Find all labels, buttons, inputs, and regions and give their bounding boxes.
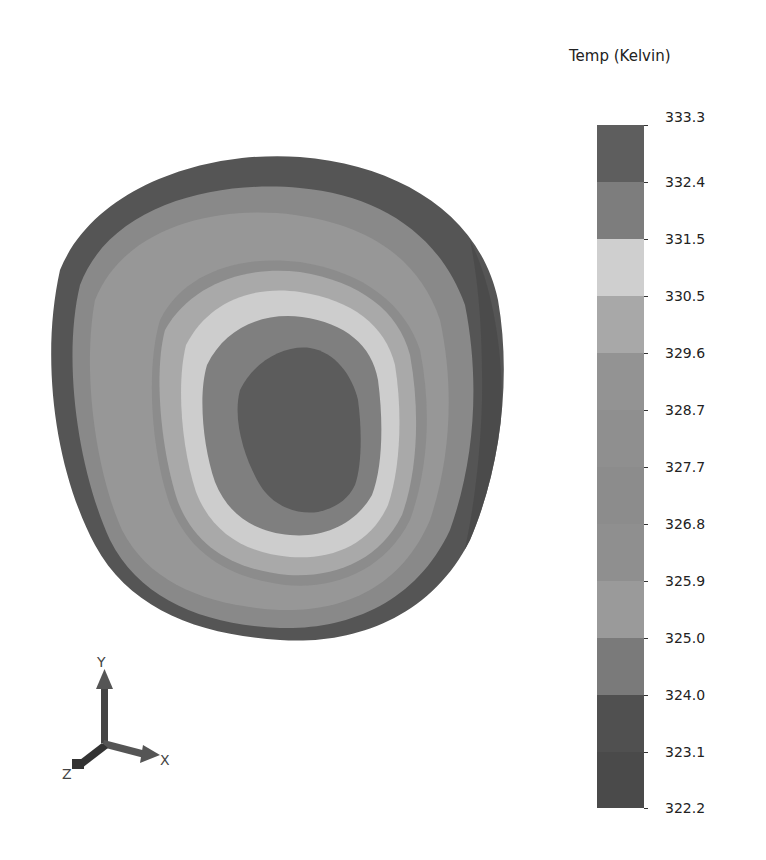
y-axis-label: Y [96, 655, 106, 670]
colorbar-band [597, 410, 644, 467]
colorbar-tick [644, 581, 648, 582]
colorbar-band [597, 353, 644, 410]
colorbar-tick [644, 808, 648, 809]
colorbar-tick [644, 296, 648, 297]
z-axis-label: Z [62, 766, 72, 780]
colorbar-band [597, 467, 644, 524]
colorbar-tick [644, 239, 648, 240]
colorbar [597, 125, 644, 808]
colorbar-tick [644, 353, 648, 354]
colorbar-tick [644, 695, 648, 696]
x-axis-label: X [160, 752, 170, 768]
colorbar-band [597, 125, 644, 182]
colorbar-tick-label: 329.6 [665, 345, 705, 361]
colorbar-tick [644, 752, 648, 753]
y-axis-arrow-icon [96, 669, 113, 743]
colorbar-band [597, 296, 644, 353]
colorbar-tick-label: 323.1 [665, 744, 705, 760]
colorbar-tick [644, 467, 648, 468]
legend-title: Temp (Kelvin) [569, 47, 670, 65]
colorbar-tick [644, 638, 648, 639]
colorbar-tick-label: 324.0 [665, 687, 705, 703]
colorbar-tick-label: 328.7 [665, 402, 705, 418]
colorbar-tick-label: 327.7 [665, 459, 705, 475]
colorbar-band [597, 638, 644, 695]
colorbar-tick [644, 182, 648, 183]
colorbar-band [597, 182, 644, 239]
colorbar-tick-label: 331.5 [665, 231, 705, 247]
colorbar-band [597, 752, 644, 808]
colorbar-tick-label: 333.3 [665, 109, 705, 125]
colorbar-band [597, 695, 644, 752]
z-axis-arrow-icon [72, 743, 108, 769]
x-axis-arrow-icon [102, 740, 160, 763]
colorbar-band [597, 524, 644, 581]
colorbar-band [597, 239, 644, 296]
colorbar-band [597, 581, 644, 638]
colorbar-tick-label: 322.2 [665, 800, 705, 816]
axes-triad: Y X Z [60, 655, 190, 780]
colorbar-tick-label: 332.4 [665, 174, 705, 190]
colorbar-tick [644, 524, 648, 525]
colorbar-tick [644, 410, 648, 411]
colorbar-tick-label: 330.5 [665, 288, 705, 304]
colorbar-tick-label: 326.8 [665, 516, 705, 532]
colorbar-tick-label: 325.9 [665, 573, 705, 589]
colorbar-tick-label: 325.0 [665, 630, 705, 646]
colorbar-tick [644, 125, 648, 126]
